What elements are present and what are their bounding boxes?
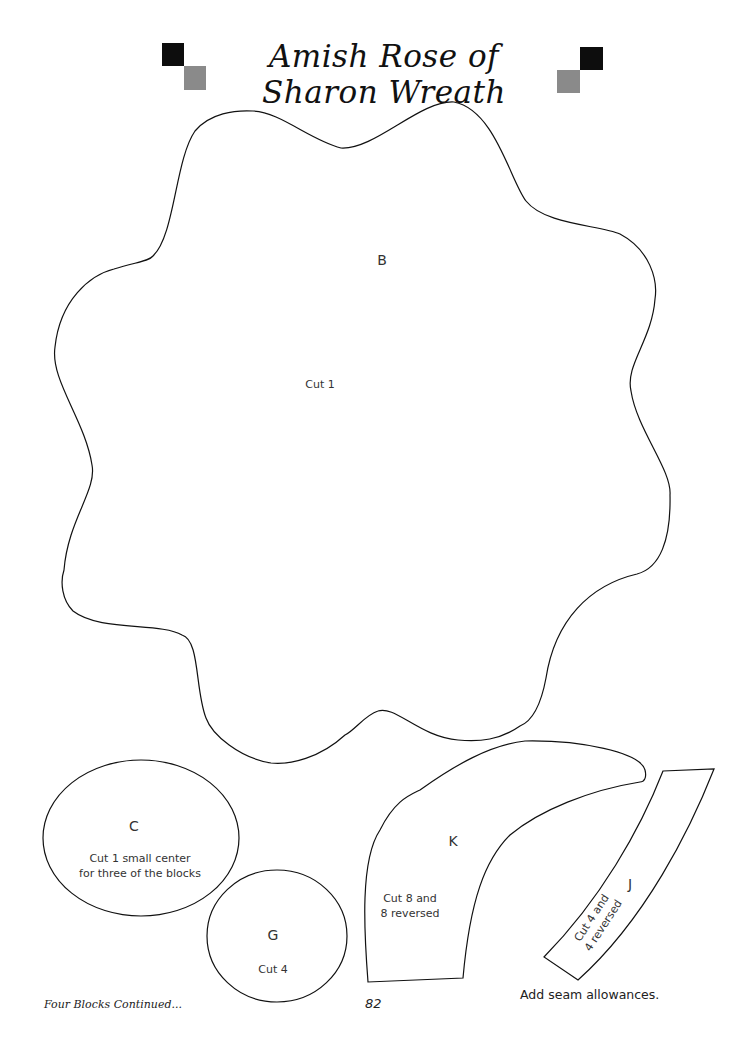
piece-k-outline: [365, 741, 646, 982]
piece-c-note-line1: Cut 1 small center: [60, 851, 220, 866]
piece-b-outline: [55, 102, 671, 763]
piece-b-note: Cut 1: [290, 377, 350, 392]
page-number: 82: [365, 996, 382, 1011]
piece-c-outline: [43, 760, 239, 916]
section-footer: Four Blocks Continued...: [44, 998, 182, 1011]
piece-g-letter: G: [263, 927, 283, 943]
piece-g-note: Cut 4: [243, 962, 303, 977]
piece-j-letter: J: [622, 876, 638, 892]
piece-k-note-line2: 8 reversed: [375, 906, 445, 921]
piece-c-letter: C: [124, 818, 144, 834]
piece-b-letter: B: [372, 252, 392, 268]
piece-k-letter: K: [443, 833, 463, 849]
seam-allowance-note: Add seam allowances.: [520, 987, 659, 1002]
piece-k-note-line1: Cut 8 and: [375, 891, 445, 906]
piece-c-note-line2: for three of the blocks: [60, 866, 220, 881]
